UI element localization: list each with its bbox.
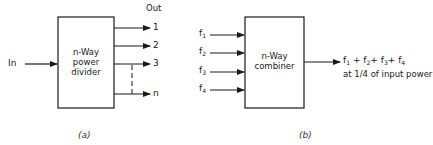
caption-b: (b): [299, 130, 312, 140]
box-line: n-Way: [58, 47, 114, 57]
input-label-f1: f1: [199, 29, 206, 39]
box-line: power: [58, 57, 114, 67]
power-divider-label: n-Way power divider: [58, 47, 114, 77]
box-line: combiner: [245, 61, 304, 71]
term-sub: 4: [401, 59, 405, 66]
output-label-2: 2: [153, 41, 159, 50]
f-sub: 2: [202, 50, 206, 57]
output-header: Out: [146, 4, 161, 13]
input-label-f2: f2: [199, 47, 206, 57]
f-sub: 3: [202, 69, 206, 76]
combiner-label: n-Way combiner: [245, 51, 304, 71]
caption-a: (a): [78, 130, 91, 140]
output-label-n: n: [153, 89, 159, 98]
output-label-1: 1: [153, 23, 159, 32]
combined-output-expression: f1 + f2+ f3+ f4: [343, 56, 405, 66]
plus: +: [353, 55, 361, 65]
f-sub: 4: [202, 87, 206, 94]
box-line: n-Way: [245, 51, 304, 61]
plus: +: [370, 55, 378, 65]
output-label-3: 3: [153, 59, 159, 68]
f-sub: 1: [202, 32, 206, 39]
input-label-f4: f4: [199, 84, 206, 94]
input-label: In: [8, 59, 16, 68]
term-sub: 1: [346, 59, 350, 66]
combined-output-power-note: at 1/4 of input power: [343, 70, 432, 79]
plus: +: [388, 55, 396, 65]
box-line: divider: [58, 67, 114, 77]
input-label-f3: f3: [199, 66, 206, 76]
